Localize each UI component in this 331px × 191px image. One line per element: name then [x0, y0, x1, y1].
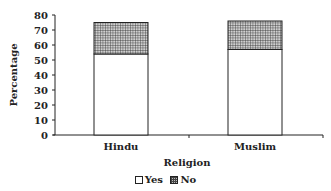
x-axis-title: Religion	[163, 157, 211, 168]
legend-swatch-no-icon	[170, 176, 178, 184]
y-axis-labels: 0 10 20 30 40 50 60 70 80	[34, 10, 48, 141]
bar-hindu	[94, 23, 148, 136]
x-category-hindu: Hindu	[104, 141, 139, 152]
legend-label-no: No	[180, 174, 196, 185]
bar-muslim-yes	[228, 50, 282, 136]
svg-text:10: 10	[34, 115, 48, 126]
svg-text:50: 50	[34, 55, 48, 66]
x-category-muslim: Muslim	[234, 141, 277, 152]
svg-text:70: 70	[34, 25, 48, 36]
svg-text:40: 40	[34, 70, 48, 81]
bar-hindu-no	[94, 23, 148, 55]
legend-swatch-yes-icon	[135, 176, 143, 184]
legend-label-yes: Yes	[145, 174, 163, 185]
svg-text:20: 20	[34, 100, 48, 111]
svg-text:0: 0	[41, 130, 48, 141]
bar-hindu-yes	[94, 54, 148, 135]
svg-text:80: 80	[34, 10, 48, 21]
svg-text:60: 60	[34, 40, 48, 51]
legend-item-no: No	[170, 174, 196, 185]
svg-text:30: 30	[34, 85, 48, 96]
legend-item-yes: Yes	[135, 174, 163, 185]
bar-muslim-no	[228, 21, 282, 50]
y-axis-title: Percentage	[8, 43, 19, 106]
stacked-bar-chart: Percentage 0 10 20 30 40 50	[0, 0, 331, 191]
bar-muslim	[228, 21, 282, 135]
legend: Yes No	[0, 174, 331, 186]
